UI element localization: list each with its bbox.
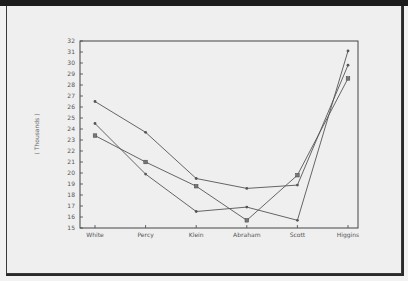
y-tick-label: 15 bbox=[67, 224, 75, 231]
dot-marker bbox=[195, 210, 198, 213]
x-category-label: Abraham bbox=[233, 231, 261, 238]
y-axis-ticks: 151617181920212223242526272829303132 bbox=[67, 37, 83, 231]
dot-marker bbox=[144, 173, 147, 176]
x-category-label: White bbox=[86, 231, 104, 238]
x-axis-categories: WhitePercyKleinAbrahamScottHiggins bbox=[86, 225, 359, 239]
series-line bbox=[95, 65, 348, 188]
y-tick-label: 26 bbox=[67, 103, 75, 110]
square-marker bbox=[296, 173, 300, 177]
y-tick-label: 25 bbox=[67, 114, 75, 121]
dot-marker bbox=[296, 184, 299, 187]
dot-marker bbox=[195, 177, 198, 180]
dot-marker bbox=[94, 122, 97, 125]
y-tick-label: 24 bbox=[67, 125, 75, 132]
y-tick-label: 19 bbox=[67, 180, 75, 187]
series-line bbox=[95, 51, 348, 220]
series-line bbox=[95, 78, 348, 220]
y-axis-label: ( Thousands ) bbox=[33, 114, 40, 155]
x-category-label: Percy bbox=[137, 231, 154, 239]
y-tick-label: 16 bbox=[67, 213, 75, 220]
series-3 bbox=[93, 77, 350, 223]
y-tick-label: 21 bbox=[67, 158, 75, 165]
dot-marker bbox=[347, 64, 350, 67]
series-1 bbox=[94, 64, 350, 190]
plot-border bbox=[80, 41, 358, 228]
dot-marker bbox=[94, 100, 97, 103]
x-category-label: Scott bbox=[290, 231, 306, 238]
y-tick-label: 17 bbox=[67, 202, 75, 209]
square-marker bbox=[144, 160, 148, 164]
square-marker bbox=[245, 219, 249, 223]
dot-marker bbox=[296, 219, 299, 222]
dot-marker bbox=[245, 206, 248, 209]
y-tick-label: 28 bbox=[67, 81, 75, 88]
y-tick-label: 23 bbox=[67, 136, 75, 143]
series-lines bbox=[93, 50, 350, 223]
y-tick-label: 32 bbox=[67, 37, 75, 44]
square-marker bbox=[346, 77, 350, 81]
series-2 bbox=[94, 50, 350, 222]
dot-marker bbox=[144, 131, 147, 134]
y-tick-label: 29 bbox=[67, 70, 75, 77]
x-category-label: Klein bbox=[189, 231, 204, 238]
plot-area bbox=[80, 41, 358, 228]
y-tick-label: 20 bbox=[67, 169, 75, 176]
y-tick-label: 18 bbox=[67, 191, 75, 198]
line-chart: ( Thousands ) 15161718192021222324252627… bbox=[0, 0, 408, 281]
dot-marker bbox=[347, 50, 350, 53]
y-tick-label: 30 bbox=[67, 59, 75, 66]
y-tick-label: 27 bbox=[67, 92, 75, 99]
square-marker bbox=[93, 134, 97, 138]
y-tick-label: 22 bbox=[67, 147, 75, 154]
x-category-label: Higgins bbox=[337, 231, 359, 239]
dot-marker bbox=[245, 187, 248, 190]
y-tick-label: 31 bbox=[67, 48, 75, 55]
square-marker bbox=[194, 184, 198, 188]
